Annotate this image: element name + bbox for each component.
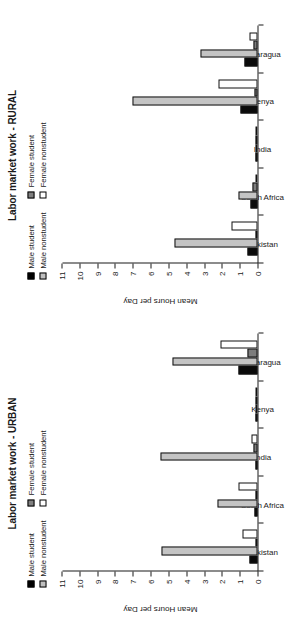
plot-area-rural: 01234567891011Mean Hours per DayPakistan…: [62, 25, 258, 263]
y-axis-tick: [132, 571, 133, 576]
bar-male-nonstudent: [161, 546, 257, 555]
bar-male-nonstudent: [255, 144, 257, 153]
bar-male-student: [254, 507, 257, 516]
chart-panel-rural: Labor market work - RURALMale studentMal…: [0, 1, 287, 309]
y-axis-tick-label: 2: [218, 579, 226, 583]
legend-swatch-icon-male_nonstudent: [39, 580, 46, 587]
legend-swatch-icon-male_student: [27, 580, 34, 587]
bar-female-student: [255, 396, 257, 405]
legend-label-female_nonstudent: Female nonstudent: [38, 122, 47, 187]
y-axis-tick: [79, 263, 80, 268]
y-axis-tick: [114, 571, 115, 576]
y-axis-tick: [79, 571, 80, 576]
legend-swatch-icon-female_nonstudent: [39, 191, 46, 198]
bar-female-nonstudent: [255, 174, 257, 183]
legend-swatch-icon-female_student: [27, 191, 34, 198]
y-axis-tick-label: 9: [94, 271, 102, 275]
legend-item-female_student[interactable]: Female student: [26, 430, 35, 506]
y-axis-tick: [168, 263, 169, 268]
legend-label-male_student: Male student: [26, 225, 35, 268]
x-axis-tick: [258, 427, 263, 428]
y-axis-tick-label: 6: [147, 579, 155, 583]
y-axis-tick-label: 1: [236, 271, 244, 275]
x-axis-tick: [258, 119, 263, 120]
y-axis-tick-label: 0: [254, 271, 262, 275]
chart-legend-urban: Male studentMale nonstudentFemale studen…: [26, 325, 47, 587]
legend-column-2: Female studentFemale nonstudent: [26, 430, 47, 506]
bar-female-student: [255, 538, 257, 547]
y-axis-tick: [257, 571, 258, 576]
bar-male-student: [247, 247, 257, 256]
legend-item-female_nonstudent[interactable]: Female nonstudent: [38, 430, 47, 506]
bar-male-student: [255, 152, 257, 161]
y-axis-tick: [114, 263, 115, 268]
bar-male-student: [249, 555, 257, 564]
legend-item-male_nonstudent[interactable]: Male nonstudent: [38, 212, 47, 279]
bar-male-nonstudent: [132, 96, 257, 105]
y-axis-tick-label: 0: [254, 579, 262, 583]
legend-label-male_nonstudent: Male nonstudent: [38, 520, 47, 576]
legend-column-1: Male studentMale nonstudent: [26, 520, 47, 587]
x-axis-tick: [258, 72, 263, 73]
y-axis-tick-label: 9: [94, 579, 102, 583]
y-axis-tick-label: 5: [165, 271, 173, 275]
bar-group-south-africa: [62, 167, 257, 214]
bar-female-nonstudent: [255, 387, 257, 396]
x-axis-tick: [258, 570, 263, 571]
bar-group-pakistan: [62, 215, 257, 262]
y-axis-tick-label: 4: [183, 271, 191, 275]
legend-label-female_nonstudent: Female nonstudent: [38, 430, 47, 495]
bars-container: [62, 25, 257, 262]
y-axis-tick: [168, 571, 169, 576]
bar-group-india: [62, 428, 257, 475]
y-axis-tick-label: 6: [147, 271, 155, 275]
y-axis-title: Mean Hours per Day: [123, 605, 197, 614]
y-axis-tick: [257, 263, 258, 268]
legend-swatch-icon-female_nonstudent: [39, 499, 46, 506]
bar-female-student: [252, 182, 257, 191]
bar-female-nonstudent: [249, 32, 257, 41]
y-axis-tick-label: 2: [218, 271, 226, 275]
bar-female-student: [254, 88, 257, 97]
bar-female-nonstudent: [218, 79, 257, 88]
y-axis-tick: [150, 263, 151, 268]
legend-item-male_nonstudent[interactable]: Male nonstudent: [38, 520, 47, 587]
bar-female-student: [253, 40, 257, 49]
bar-male-nonstudent: [238, 191, 258, 200]
legend-item-male_student[interactable]: Male student: [26, 212, 35, 279]
plot-area-urban: 01234567891011Mean Hours per DayPakistan…: [62, 333, 258, 571]
legend-item-male_student[interactable]: Male student: [26, 520, 35, 587]
y-axis-tick: [150, 571, 151, 576]
y-axis-tick-label: 3: [201, 579, 209, 583]
legend-item-female_student[interactable]: Female student: [26, 122, 35, 198]
legend-label-male_student: Male student: [26, 533, 35, 576]
y-axis-tick: [221, 263, 222, 268]
bar-male-student: [238, 365, 257, 374]
bar-female-student: [247, 348, 257, 357]
x-axis-tick: [258, 332, 263, 333]
bar-female-nonstudent: [220, 340, 257, 349]
bar-female-student: [253, 443, 257, 452]
bar-female-student: [255, 135, 257, 144]
bar-group-kenya: [62, 72, 257, 119]
bar-group-pakistan: [62, 523, 257, 570]
bar-female-nonstudent: [238, 482, 258, 491]
bar-male-nonstudent: [172, 357, 257, 366]
chart-title-urban: Labor market work - URBAN: [6, 309, 17, 617]
x-axis-tick: [258, 167, 263, 168]
y-axis-tick-label: 7: [129, 271, 137, 275]
x-axis-tick: [258, 262, 263, 263]
y-axis-tick: [61, 263, 62, 268]
legend-item-female_nonstudent[interactable]: Female nonstudent: [38, 122, 47, 198]
bar-female-nonstudent: [231, 221, 257, 230]
bar-male-student: [240, 105, 257, 114]
y-axis-tick-label: 8: [111, 271, 119, 275]
y-axis-tick: [61, 571, 62, 576]
y-axis-tick: [221, 571, 222, 576]
bar-male-nonstudent: [200, 49, 257, 58]
chart-title-rural: Labor market work - RURAL: [6, 1, 17, 309]
y-axis-tick-label: 1: [236, 579, 244, 583]
figure-canvas: Labor market work - URBANMale studentMal…: [0, 0, 287, 617]
y-axis-tick: [186, 263, 187, 268]
y-axis-tick: [239, 263, 240, 268]
